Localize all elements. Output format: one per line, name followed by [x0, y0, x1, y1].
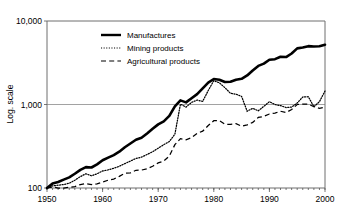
y-axis-tick-label: 100 [28, 183, 42, 193]
y-axis-tick-label: 10,000 [16, 16, 42, 26]
x-axis-tick-label: 1960 [93, 194, 112, 204]
legend-label-mining-products: Mining products [127, 44, 183, 53]
y-axis-tick-labels: 1001,00010,000 [16, 16, 42, 193]
x-axis-tick-labels: 195019601970198019902000 [38, 194, 335, 204]
y-axis-tick-label: 1,000 [21, 100, 43, 110]
line-chart: 195019601970198019902000 1001,00010,000 … [0, 0, 345, 213]
x-axis-tick-label: 1980 [204, 194, 223, 204]
x-axis-tick-label: 1970 [149, 194, 168, 204]
x-axis-tick-label: 2000 [316, 194, 335, 204]
y-axis-title-label: Log. scale [5, 84, 15, 123]
chart-figure: 195019601970198019902000 1001,00010,000 … [0, 0, 345, 213]
y-axis-title: Log. scale [5, 84, 15, 123]
x-axis-tick-label: 1990 [260, 194, 279, 204]
legend-label-agricultural-products: Agricultural products [127, 57, 200, 66]
legend-label-manufactures: Manufactures [127, 31, 175, 40]
x-axis-tick-label: 1950 [38, 194, 57, 204]
